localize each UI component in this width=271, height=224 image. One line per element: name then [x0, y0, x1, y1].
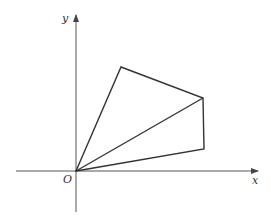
origin-label: O: [63, 173, 72, 186]
x-axis-label: x: [252, 174, 258, 187]
quadrilateral: [76, 67, 204, 171]
diagram: y x O: [0, 0, 271, 224]
coordinate-figure: [0, 0, 271, 224]
y-axis-label: y: [62, 12, 68, 25]
